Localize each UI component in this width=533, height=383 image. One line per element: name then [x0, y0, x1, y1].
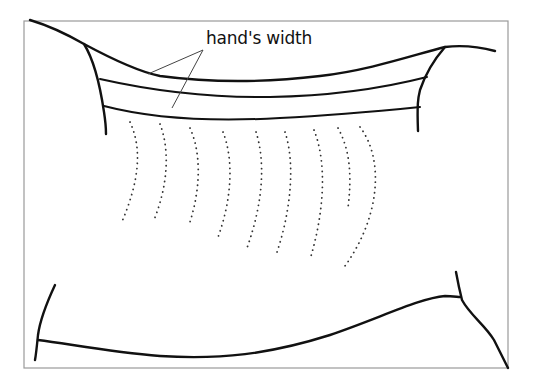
dotted-curve-5	[247, 132, 262, 248]
figure-svg	[0, 0, 533, 383]
left-side-wall	[84, 44, 106, 134]
dotted-curve-6	[276, 132, 291, 255]
lower-outline	[38, 296, 460, 357]
hands-width-label: hand's width	[206, 28, 312, 48]
dotted-curve-7	[311, 130, 322, 256]
dotted-curve-2	[154, 124, 166, 220]
lower-left-wall	[35, 285, 55, 360]
leader-line-1	[148, 50, 203, 74]
dotted-curve-8	[338, 128, 350, 208]
dotted-curve-4	[217, 132, 230, 240]
dotted-curve-1	[121, 122, 137, 224]
right-side-wall	[418, 47, 445, 131]
band-line-2	[104, 106, 420, 120]
lower-right-wall	[456, 272, 508, 368]
dotted-curve-9	[342, 127, 375, 270]
dotted-curve-3	[190, 128, 198, 222]
